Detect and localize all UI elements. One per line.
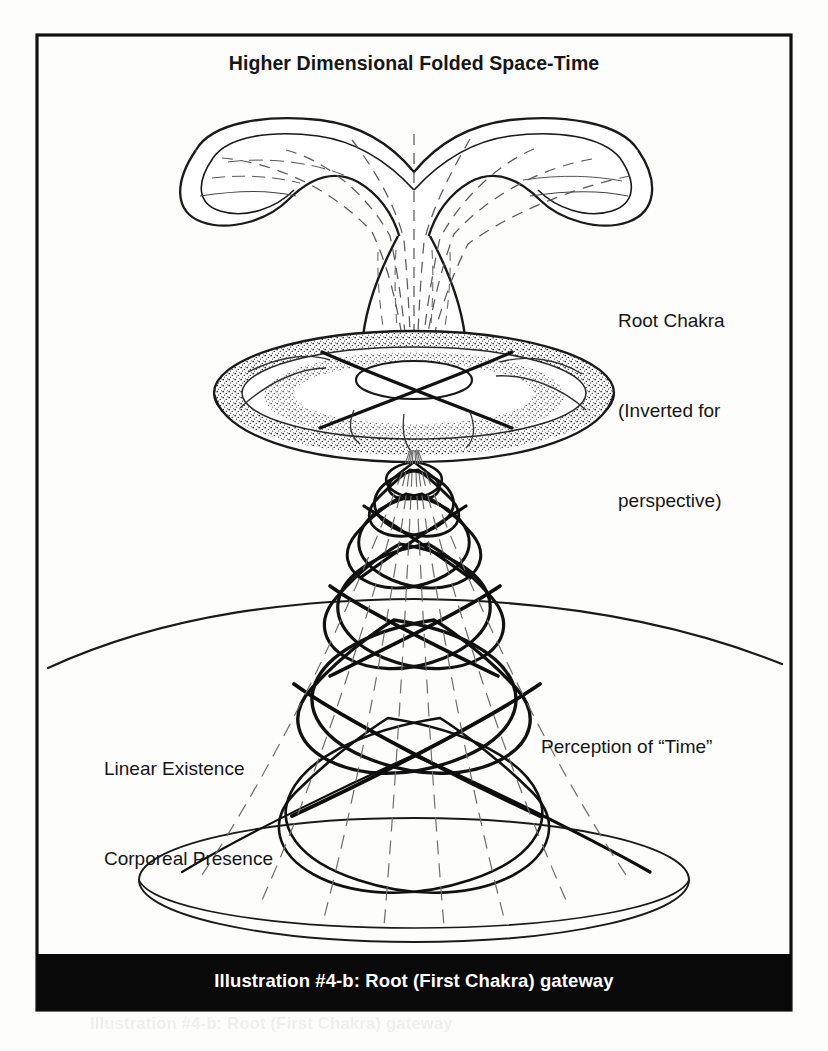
caption-bar: Illustration #4-b: Root (First Chakra) g…	[37, 954, 791, 1010]
figure-title: Higher Dimensional Folded Space-Time	[0, 52, 828, 75]
caption-text: Illustration #4-b: Root (First Chakra) g…	[37, 970, 791, 992]
label-root-chakra-line1: Root Chakra	[618, 306, 725, 336]
label-perception-of-time: Perception of “Time”	[541, 732, 712, 762]
scan-ghost-text: Illustration #4-b: Root (First Chakra) g…	[90, 1016, 560, 1046]
label-linear-existence-line1: Linear Existence	[104, 754, 273, 784]
label-linear-existence-line2: Corporeal Presence	[104, 844, 273, 874]
label-root-chakra-line3: perspective)	[618, 486, 725, 516]
label-root-chakra-line2: (Inverted for	[618, 396, 725, 426]
illustration-page: Higher Dimensional Folded Space-Time Roo…	[0, 0, 828, 1051]
label-root-chakra: Root Chakra (Inverted for perspective)	[618, 246, 725, 576]
label-linear-existence: Linear Existence Corporeal Presence	[104, 694, 273, 934]
